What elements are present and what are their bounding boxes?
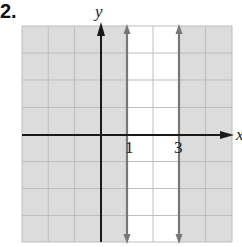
tick-label-3: 3	[174, 138, 183, 157]
y-axis-label: y	[93, 2, 103, 21]
tick-label-1: 1	[125, 138, 134, 157]
coordinate-graph: y x 1 3	[0, 0, 242, 247]
x-axis-label: x	[235, 125, 242, 144]
